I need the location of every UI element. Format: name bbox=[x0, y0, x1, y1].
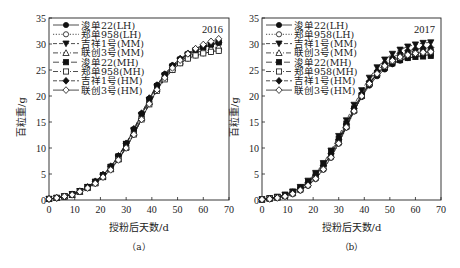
filled-diamond-marker-icon bbox=[276, 77, 282, 84]
panel-caption: （a） bbox=[127, 242, 150, 252]
filled-circle-marker-icon bbox=[63, 22, 68, 27]
figure: 01020304050607005101520253035授粉后天数/d百粒重/… bbox=[0, 0, 460, 268]
filled-circle-marker-icon bbox=[276, 22, 281, 27]
x-tick-label: 70 bbox=[224, 204, 234, 215]
y-tick-label: 15 bbox=[249, 117, 259, 128]
open-diamond-marker-icon bbox=[276, 87, 282, 94]
filled-square-marker-icon bbox=[63, 60, 68, 65]
open-circle-marker-icon bbox=[63, 32, 68, 37]
y-tick-label: 5 bbox=[254, 169, 259, 180]
open-square-marker-icon bbox=[201, 51, 206, 56]
y-axis-label: 百粒重/g bbox=[228, 97, 240, 137]
y-tick-label: 20 bbox=[249, 91, 259, 102]
y-tick-label: 5 bbox=[41, 169, 46, 180]
x-tick-label: 10 bbox=[70, 204, 80, 215]
y-tick-label: 10 bbox=[36, 143, 46, 154]
panel-caption: （b） bbox=[340, 242, 364, 252]
open-square-marker-icon bbox=[276, 69, 281, 74]
legend-item: 联创3号(HM) bbox=[53, 85, 142, 96]
x-tick-label: 20 bbox=[308, 204, 318, 215]
x-tick-label: 50 bbox=[173, 204, 183, 215]
open-diamond-marker-icon bbox=[63, 87, 69, 94]
chart-panel-0: 01020304050607005101520253035授粉后天数/d百粒重/… bbox=[15, 13, 234, 253]
x-tick-label: 10 bbox=[283, 204, 293, 215]
legend-label: 联创3号(HM) bbox=[81, 85, 142, 96]
x-axis-label: 授粉后天数/d bbox=[322, 221, 382, 233]
year-label: 2016 bbox=[202, 24, 223, 35]
x-axis-label: 授粉后天数/d bbox=[109, 221, 169, 233]
x-tick-label: 40 bbox=[147, 204, 157, 215]
y-tick-label: 30 bbox=[36, 39, 46, 50]
year-label: 2017 bbox=[414, 24, 435, 35]
legend: 浚单22(LH)郑单958(LH)吉祥1号(MM)联创3号(MM)浚单22(MH… bbox=[266, 20, 358, 96]
open-square-marker-icon bbox=[63, 69, 68, 74]
y-tick-label: 0 bbox=[254, 195, 259, 206]
open-circle-marker-icon bbox=[276, 32, 281, 37]
y-tick-label: 30 bbox=[249, 39, 259, 50]
legend: 浚单22(LH)郑单958(LH)吉祥1号(MM)联创3号(MM)浚单22(MH… bbox=[53, 20, 145, 96]
legend-item: 联创3号(HM) bbox=[266, 85, 355, 96]
open-square-marker-icon bbox=[216, 48, 221, 53]
filled-square-marker-icon bbox=[276, 60, 281, 65]
x-tick-label: 30 bbox=[121, 204, 131, 215]
x-tick-label: 70 bbox=[436, 204, 446, 215]
chart-panel-1: 01020304050607005101520253035授粉后天数/d百粒重/… bbox=[228, 13, 446, 253]
y-tick-label: 15 bbox=[36, 117, 46, 128]
open-square-marker-icon bbox=[193, 53, 198, 58]
x-tick-label: 60 bbox=[198, 204, 208, 215]
filled-diamond-marker-icon bbox=[63, 77, 69, 84]
y-tick-label: 25 bbox=[249, 65, 259, 76]
x-tick-label: 0 bbox=[260, 204, 265, 215]
y-tick-label: 10 bbox=[249, 143, 259, 154]
x-tick-label: 60 bbox=[410, 204, 420, 215]
x-tick-label: 40 bbox=[359, 204, 369, 215]
x-tick-label: 30 bbox=[334, 204, 344, 215]
legend-label: 联创3号(HM) bbox=[294, 85, 355, 96]
y-tick-label: 20 bbox=[36, 91, 46, 102]
x-tick-label: 0 bbox=[47, 204, 52, 215]
open-square-marker-icon bbox=[208, 49, 213, 54]
y-axis-label: 百粒重/g bbox=[15, 97, 27, 137]
y-tick-label: 25 bbox=[36, 65, 46, 76]
x-tick-label: 20 bbox=[95, 204, 105, 215]
x-tick-label: 50 bbox=[385, 204, 395, 215]
y-tick-label: 0 bbox=[41, 195, 46, 206]
y-tick-label: 35 bbox=[249, 13, 259, 24]
y-tick-label: 35 bbox=[36, 13, 46, 24]
